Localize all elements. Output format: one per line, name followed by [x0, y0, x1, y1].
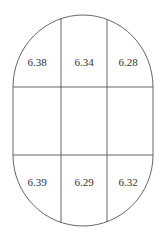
cell-top-left: 6.38 [27, 56, 47, 68]
cell-bottom-center: 6.29 [74, 176, 94, 188]
stadium-diagram: 6.38 6.34 6.28 6.39 6.29 6.32 [0, 0, 160, 237]
cell-bottom-right: 6.32 [118, 176, 137, 188]
stadium-outline [13, 15, 153, 226]
cell-top-right: 6.28 [118, 56, 138, 68]
cell-bottom-left: 6.39 [27, 176, 47, 188]
cell-top-center: 6.34 [74, 56, 94, 68]
